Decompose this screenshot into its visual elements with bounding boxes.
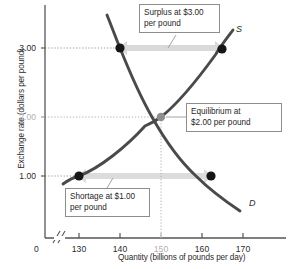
origin-label: 0 — [34, 244, 39, 254]
equilibrium-callout-line1: Equilibrium at — [191, 106, 277, 117]
y-axis-title: Exchange rate (dollars per pound) — [17, 36, 26, 181]
y-tick-label-1: 1.00 — [4, 171, 36, 181]
callout-leader-lines — [107, 35, 186, 188]
y-tick-label-3: 3.00 — [4, 43, 36, 53]
x-axis-ticks — [79, 233, 243, 238]
demand-curve-label: D — [249, 198, 256, 208]
equilibrium-callout: Equilibrium at $2.00 per pound — [186, 103, 282, 132]
shortage-callout: Shortage at $1.00 per pound — [65, 188, 150, 217]
x-tick-label-170: 170 — [228, 244, 258, 254]
x-tick-label-130: 130 — [64, 244, 94, 254]
chart-canvas — [0, 0, 289, 269]
x-tick-label-160: 160 — [187, 244, 217, 254]
supply-point-at-3 — [217, 44, 226, 53]
equilibrium-point — [157, 113, 165, 121]
x-axis-title: Quantity (billions of pounds per day) — [118, 253, 245, 262]
y-tick-label-2: 2.00 — [4, 112, 36, 122]
surplus-callout: Surplus at $3.00 per pound — [139, 4, 220, 33]
axis-break-mark — [53, 231, 65, 243]
x-tick-label-150: 150 — [146, 244, 176, 254]
demand-point-at-1 — [206, 171, 215, 180]
surplus-callout-line1: Surplus at $3.00 — [144, 7, 215, 18]
surplus-callout-line2: per pound — [144, 18, 215, 29]
x-tick-label-140: 140 — [105, 244, 135, 254]
supply-point-at-1 — [74, 171, 83, 180]
shortage-callout-line2: per pound — [70, 202, 145, 213]
supply-curve-label: S — [236, 24, 242, 34]
demand-point-at-3 — [115, 43, 124, 52]
shortage-callout-line1: Shortage at $1.00 — [70, 191, 145, 202]
supply-demand-chart: Exchange rate (dollars per pound) Quanti… — [0, 0, 289, 269]
equilibrium-callout-line2: $2.00 per pound — [191, 117, 277, 128]
